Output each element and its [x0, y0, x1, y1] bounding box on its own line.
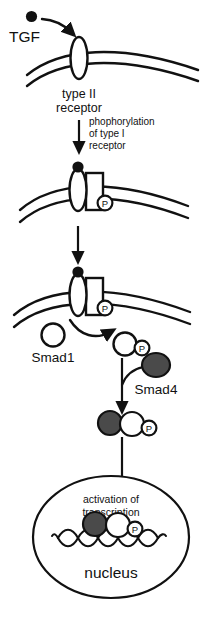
tgf-ligand-bound-icon-2 [72, 161, 83, 172]
phosphate-badge-label-5: P [132, 524, 138, 535]
phosphate-badge-label-3: P [139, 343, 145, 354]
stage-type-i-receptor-phosphorylation: P [20, 161, 188, 258]
membrane-inner-leaflet-1 [27, 63, 198, 86]
tgf-ligand-bound-icon-3 [72, 266, 83, 277]
smad1-label: Smad1 [32, 350, 75, 365]
stage-nuclear-transcription: activation of transcription P nucleus [33, 476, 189, 598]
type-ii-receptor-label-line2: receptor [56, 101, 102, 115]
tgf-ligand-icon [26, 11, 37, 22]
phosphate-badge-label-2: P [102, 303, 108, 314]
nucleus-label: nucleus [84, 564, 138, 581]
stage-smad1-recruitment: P Smad1 P [14, 266, 190, 365]
smad1-phosphorylated-icon [114, 333, 137, 356]
stage-ligand-binding: TGF type II receptor phophorylation of t… [9, 11, 198, 151]
smad4-label: Smad4 [135, 382, 178, 397]
phosphorylation-note-line3: receptor [89, 140, 126, 151]
smad4-icon [142, 353, 170, 377]
pathway-diagram: TGF type II receptor phophorylation of t… [0, 0, 213, 620]
pathway-figure: TGF type II receptor phophorylation of t… [0, 0, 213, 620]
phosphorylation-note-line1: phophorylation [89, 116, 155, 127]
type-ii-receptor-icon-2 [70, 169, 87, 211]
type-ii-receptor-icon [71, 37, 88, 79]
nuclear-smad4-icon [83, 512, 107, 536]
phosphorylation-note-line2: of type I [89, 128, 125, 139]
smad-complex-smad4-icon [98, 411, 122, 435]
nuclear-smad1-icon [106, 513, 130, 537]
type-ii-receptor-label-line1: type II [62, 87, 96, 101]
smad-complex-smad1-icon [120, 412, 144, 436]
activation-label-line1: activation of [83, 493, 139, 505]
phosphate-badge-complex: P [142, 421, 157, 436]
smad1-phosphorylation-arrow [70, 320, 110, 336]
phosphate-badge-nuclear: P [128, 522, 143, 537]
type-ii-receptor-icon-3 [70, 274, 87, 316]
ligand-binding-arrow [42, 19, 71, 32]
phosphate-badge-smad1: P [135, 341, 150, 356]
phosphate-badge-label-4: P [146, 423, 152, 434]
phosphate-badge-receptor-1: P [98, 196, 113, 211]
smad1-icon [42, 324, 65, 347]
tgf-label: TGF [9, 28, 40, 45]
phosphate-badge-label: P [102, 198, 108, 209]
phosphate-badge-receptor-2: P [98, 301, 113, 316]
